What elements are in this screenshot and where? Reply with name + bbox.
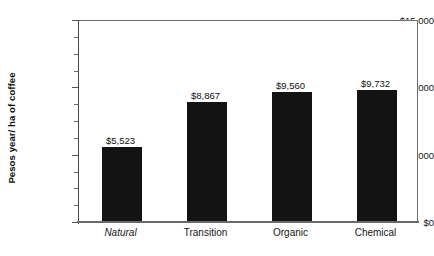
x-category-label: Chemical (355, 227, 397, 238)
bar-value-label: $9,560 (276, 80, 305, 91)
bar-chart-figure: Pesos year/ ha of coffee $0$5,000$10,000… (0, 0, 434, 256)
bar (102, 147, 142, 221)
y-axis-line (78, 20, 79, 224)
plot-area (78, 20, 418, 222)
x-category-label: Transition (184, 227, 228, 238)
bar (272, 92, 312, 221)
x-category-label: Natural (104, 227, 136, 238)
bar (187, 102, 227, 221)
x-category-label: Organic (273, 227, 308, 238)
bar-value-label: $5,523 (106, 135, 135, 146)
bar (357, 90, 397, 221)
y-axis-title: Pesos year/ ha of coffee (0, 0, 22, 256)
x-axis-line (77, 221, 419, 223)
bar-value-label: $8,867 (191, 90, 220, 101)
bar-value-label: $9,732 (361, 78, 390, 89)
